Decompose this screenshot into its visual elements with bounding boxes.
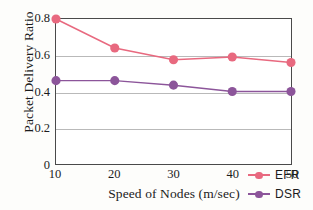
data-point [169,81,178,90]
legend-marker-icon [248,189,270,199]
y-tick-label: 0.6 [18,49,50,62]
data-point [286,58,295,67]
chart-figure: Packet Delivery Ratio 00.20.40.60.8 Spee… [0,0,313,210]
legend-label: DSR [275,187,301,201]
x-tick-label: 20 [99,168,129,181]
y-tick-label: 0.4 [18,86,50,99]
y-tick-label: 0.2 [18,122,50,135]
series-dsr [51,76,295,96]
data-point [286,87,295,96]
plot-area [55,18,292,165]
legend-marker-icon [248,170,270,180]
x-tick-label: 40 [218,168,248,181]
x-tick-label: 10 [40,168,70,181]
x-tick-label: 30 [159,168,189,181]
legend-item-dsr: DSR [248,187,301,201]
series-layer [56,19,291,164]
data-point [228,87,237,96]
data-point [169,55,178,64]
y-tick-label: 0.8 [18,12,50,25]
data-point [110,43,119,52]
series-efr [51,14,295,67]
data-point [110,76,119,85]
x-tick-label: 50 [277,168,307,181]
data-point [228,53,237,62]
data-point [51,14,60,23]
data-point [51,76,60,85]
